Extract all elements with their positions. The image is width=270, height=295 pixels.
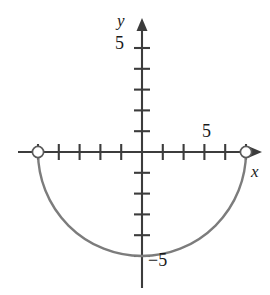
y-axis-tick-label-5: 5 bbox=[115, 34, 124, 52]
graph-figure: y x 5 5 −5 bbox=[0, 0, 270, 295]
y-axis-tick-label-minus5: −5 bbox=[148, 251, 167, 269]
y-axis-arrow-icon bbox=[137, 18, 148, 31]
coordinate-plot-svg bbox=[0, 0, 270, 295]
open-endpoint-right-marker bbox=[240, 146, 251, 157]
open-endpoint-left-marker bbox=[32, 146, 43, 157]
x-axis-tick-label-5: 5 bbox=[202, 122, 211, 140]
x-axis-label: x bbox=[251, 163, 259, 180]
y-axis-label: y bbox=[117, 12, 125, 29]
